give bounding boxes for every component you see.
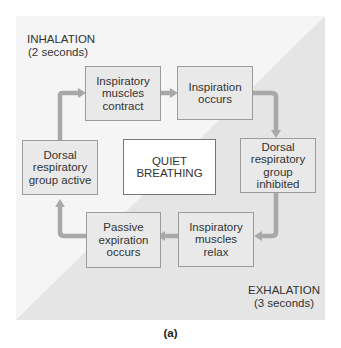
diagram-panel: INHALATION (2 seconds) EXHALATION (3 sec… (16, 16, 325, 320)
center-line2: BREATHING (136, 167, 202, 180)
center-quiet-breathing: QUIET BREATHING (123, 139, 216, 195)
figure-caption: (a) (0, 327, 341, 339)
step-text: Dorsal respiratory group active (26, 149, 94, 187)
step-text: Inspiratory muscles relax (186, 221, 246, 259)
center-line1: QUIET (136, 155, 202, 168)
step-drg-inhibited: Dorsal respiratory group inhibited (240, 138, 316, 193)
step-inspiratory-muscles-relax: Inspiratory muscles relax (178, 212, 254, 267)
step-text: Inspiratory muscles contract (93, 75, 153, 113)
step-inspiration-occurs: Inspiration occurs (177, 66, 253, 120)
step-text: Passive expiration occurs (93, 221, 155, 259)
step-text: Dorsal respiratory group inhibited (244, 141, 312, 191)
step-drg-active: Dorsal respiratory group active (22, 140, 98, 195)
step-passive-expiration-occurs: Passive expiration occurs (86, 212, 161, 268)
step-text: Inspiration occurs (183, 81, 247, 106)
step-inspiratory-muscles-contract: Inspiratory muscles contract (85, 66, 161, 121)
